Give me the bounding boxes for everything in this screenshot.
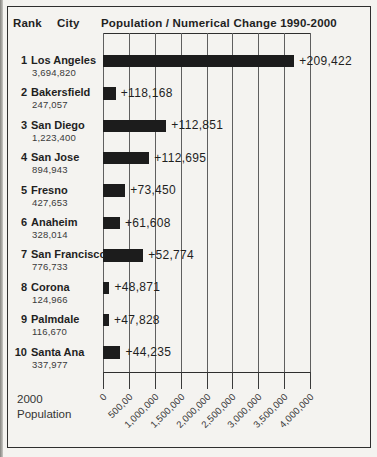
bar xyxy=(103,152,149,165)
city-label: San Francisco xyxy=(31,248,106,260)
gridline xyxy=(284,33,285,372)
rank-city-line: 3San Diego xyxy=(12,119,106,132)
axis-tick xyxy=(310,372,311,389)
city-label: Anaheim xyxy=(31,216,77,228)
population-label: 247,057 xyxy=(32,99,106,111)
population-label: 337,977 xyxy=(32,359,106,371)
population-label: 328,014 xyxy=(32,229,106,241)
table-row: 7San Francisco776,733 xyxy=(12,248,106,273)
axis-tick xyxy=(207,372,208,389)
population-label: 427,653 xyxy=(32,197,106,209)
header-rank: Rank xyxy=(13,17,42,29)
table-row: 10Santa Ana337,977 xyxy=(12,346,106,371)
x-axis-title-line2: Population xyxy=(17,407,71,422)
table-row: 4San Jose894,943 xyxy=(12,151,106,176)
figure-canvas: Rank City Population / Numerical Change … xyxy=(0,0,377,457)
rank-label: 2 xyxy=(12,86,27,99)
bar-change-label: +112,851 xyxy=(171,119,223,132)
bar xyxy=(103,120,166,133)
table-row: 8Corona124,966 xyxy=(12,281,106,306)
gridline xyxy=(181,33,182,372)
city-label: Bakersfield xyxy=(31,86,90,98)
table-row: 9Palmdale116,670 xyxy=(12,313,106,338)
bar xyxy=(103,249,143,262)
population-label: 3,694,820 xyxy=(32,67,106,79)
rank-label: 1 xyxy=(12,54,27,67)
rank-label: 10 xyxy=(12,346,27,359)
bar-change-label: +73,450 xyxy=(130,184,176,197)
header-title: Population / Numerical Change 1990-2000 xyxy=(101,17,337,29)
city-label: Santa Ana xyxy=(31,346,84,358)
rank-label: 5 xyxy=(12,184,27,197)
gridline xyxy=(310,33,311,372)
table-row: 5Fresno427,653 xyxy=(12,184,106,209)
bar-change-label: +209,422 xyxy=(299,55,352,68)
rank-label: 7 xyxy=(12,248,27,261)
axis-tick xyxy=(232,372,233,389)
axis-tick xyxy=(181,372,182,389)
city-label: Fresno xyxy=(31,184,68,196)
rank-city-line: 2Bakersfield xyxy=(12,86,106,99)
header-city: City xyxy=(57,17,80,29)
population-label: 116,670 xyxy=(32,326,106,338)
bar xyxy=(103,55,294,68)
rank-label: 9 xyxy=(12,313,27,326)
rank-city-line: 8Corona xyxy=(12,281,106,294)
axis-tick xyxy=(155,372,156,389)
table-row: 1Los Angeles3,694,820 xyxy=(12,54,106,79)
gridline xyxy=(232,33,233,372)
rank-city-line: 1Los Angeles xyxy=(12,54,106,67)
bar-change-label: +112,695 xyxy=(154,152,206,165)
population-label: 124,966 xyxy=(32,294,106,306)
rank-city-line: 5Fresno xyxy=(12,184,106,197)
axis-tick xyxy=(284,372,285,389)
axis-tick xyxy=(103,372,104,389)
city-label: Los Angeles xyxy=(31,54,96,66)
scan-edge-artifact xyxy=(0,0,3,457)
rank-city-line: 7San Francisco xyxy=(12,248,106,261)
table-row: 3San Diego1,223,400 xyxy=(12,119,106,144)
rank-label: 6 xyxy=(12,216,27,229)
rank-label: 4 xyxy=(12,151,27,164)
bar-change-label: +52,774 xyxy=(148,249,194,262)
bar-change-label: +48,871 xyxy=(114,281,160,294)
city-label: Palmdale xyxy=(31,313,79,325)
x-axis-title: 2000 Population xyxy=(17,392,71,421)
city-label: San Jose xyxy=(31,151,79,163)
bar-change-label: +61,608 xyxy=(125,217,171,230)
axis-tick xyxy=(258,372,259,389)
rank-label: 8 xyxy=(12,281,27,294)
gridline xyxy=(258,33,259,372)
rank-city-line: 10Santa Ana xyxy=(12,346,106,359)
population-label: 776,733 xyxy=(32,261,106,273)
x-axis-title-line1: 2000 xyxy=(17,392,71,407)
table-row: 2Bakersfield247,057 xyxy=(12,86,106,111)
rank-label: 3 xyxy=(12,119,27,132)
bar-change-label: +44,235 xyxy=(125,346,171,359)
population-label: 1,223,400 xyxy=(32,132,106,144)
rank-city-line: 6Anaheim xyxy=(12,216,106,229)
gridline xyxy=(207,33,208,372)
bar-change-label: +47,828 xyxy=(114,314,160,327)
rank-city-line: 4San Jose xyxy=(12,151,106,164)
bar xyxy=(103,184,125,197)
table-row: 6Anaheim328,014 xyxy=(12,216,106,241)
rank-city-line: 9Palmdale xyxy=(12,313,106,326)
city-label: San Diego xyxy=(31,119,85,131)
axis-tick xyxy=(129,372,130,389)
bar-change-label: +118,168 xyxy=(121,87,173,100)
population-label: 894,943 xyxy=(32,164,106,176)
city-label: Corona xyxy=(31,281,70,293)
